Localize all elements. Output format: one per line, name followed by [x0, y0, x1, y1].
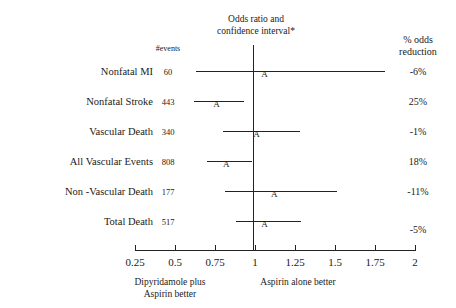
- row-label: Total Death: [8, 216, 153, 228]
- odds-reduction-header-line-2: reduction: [384, 46, 452, 58]
- x-axis-caption-left: Dipyridamole plus Aspirin better: [110, 277, 230, 300]
- x-axis-tick: [295, 245, 296, 250]
- confidence-interval-line: [225, 191, 337, 192]
- x-axis-tick-label: 1: [233, 256, 277, 269]
- point-estimate-marker: A: [259, 220, 271, 229]
- row-label: Nonfatal MI: [8, 66, 153, 78]
- x-axis-tick-label: 2: [393, 256, 437, 269]
- odds-reduction-header-line-1: % odds: [384, 34, 452, 46]
- odds-reduction-column-header: % odds reduction: [384, 34, 452, 58]
- row-events-count: 517: [148, 216, 188, 228]
- reference-line-at-one: [253, 45, 254, 250]
- x-axis-tick-label: 0.75: [193, 256, 237, 269]
- caption-left-line-1: Dipyridamole plus: [110, 277, 230, 289]
- chart-title-line-1: Odds ratio and: [186, 14, 326, 26]
- point-estimate-marker: A: [259, 70, 271, 79]
- row-events-count: 443: [148, 96, 188, 108]
- point-estimate-marker: A: [220, 160, 232, 169]
- confidence-interval-line: [196, 71, 385, 72]
- forest-plot-figure: Odds ratio and confidence interval* % od…: [0, 0, 456, 308]
- x-axis-caption-right: Aspirin alone better: [238, 277, 358, 289]
- point-estimate-marker: A: [251, 130, 263, 139]
- x-axis-tick: [375, 245, 376, 250]
- x-axis-tick: [175, 245, 176, 250]
- x-axis-tick-label: 1.5: [313, 256, 357, 269]
- row-odds-reduction: 18%: [390, 156, 446, 168]
- row-label: Non -Vascular Death: [8, 186, 153, 198]
- row-events-count: 60: [148, 66, 188, 78]
- x-axis-tick-label: 0.25: [113, 256, 157, 269]
- chart-title: Odds ratio and confidence interval*: [186, 14, 326, 37]
- row-events-count: 808: [148, 156, 188, 168]
- x-axis-tick: [335, 245, 336, 250]
- x-axis-tick-label: 1.25: [273, 256, 317, 269]
- x-axis-tick: [215, 245, 216, 250]
- caption-left-line-2: Aspirin better: [110, 289, 230, 301]
- x-axis-tick-label: 0.5: [153, 256, 197, 269]
- x-axis-tick: [255, 245, 256, 250]
- caption-right-line-1: Aspirin alone better: [238, 277, 358, 289]
- row-label: Nonfatal Stroke: [8, 96, 153, 108]
- x-axis-tick: [415, 245, 416, 250]
- row-label: All Vascular Events: [8, 156, 153, 168]
- point-estimate-marker: A: [211, 100, 223, 109]
- row-events-count: 340: [148, 126, 188, 138]
- row-events-count: 177: [148, 186, 188, 198]
- chart-title-line-2: confidence interval*: [186, 26, 326, 38]
- x-axis-tick-label: 1.75: [353, 256, 397, 269]
- row-odds-reduction: -1%: [390, 126, 446, 138]
- events-column-header: #events: [140, 44, 196, 54]
- row-odds-reduction: 25%: [390, 96, 446, 108]
- row-odds-reduction: -11%: [390, 186, 446, 198]
- x-axis-line: [135, 250, 416, 251]
- row-label: Vascular Death: [8, 126, 153, 138]
- point-estimate-marker: A: [268, 190, 280, 199]
- row-odds-reduction: -5%: [390, 224, 446, 236]
- row-odds-reduction: -6%: [390, 66, 446, 78]
- x-axis-tick: [135, 245, 136, 250]
